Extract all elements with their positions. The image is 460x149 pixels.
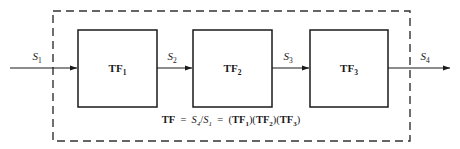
- overall-transfer-function-formula: TF = S4/S1 = (TF1)(TF2)(TF3): [162, 114, 301, 128]
- signal-label-s3: S3: [283, 50, 293, 65]
- block-diagram-figure: TF1 TF2 TF3 S1 S2 S3 S4 TF = S4/S1 = (TF…: [0, 0, 460, 149]
- signal-label-s1: S1: [32, 50, 42, 65]
- signal-label-s4: S4: [420, 50, 430, 65]
- diagram-canvas: TF1 TF2 TF3 S1 S2 S3 S4 TF = S4/S1 = (TF…: [0, 0, 460, 149]
- signal-label-s2: S2: [167, 50, 177, 65]
